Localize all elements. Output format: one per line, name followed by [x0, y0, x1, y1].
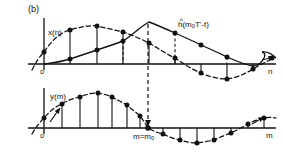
- top-sample-dots-h: [68, 31, 275, 62]
- bottom-origin-label: o: [40, 132, 44, 140]
- top-origin-label: o: [40, 68, 44, 76]
- panel-label: (b): [28, 5, 39, 14]
- figure-panel-b: (b) x(n) o n h^(m0T'-t) y(m) o m m=m0: [0, 0, 283, 155]
- top-x-axis-label: n: [268, 68, 272, 76]
- filter-label-mid: T'-t: [195, 20, 206, 29]
- m-equals-m0-label: m=m0: [133, 133, 154, 142]
- m-marker-sub: 0: [151, 135, 154, 141]
- top-stems: [70, 26, 253, 79]
- m-marker-head: m=m: [133, 132, 151, 141]
- top-curve-xn: [32, 26, 274, 79]
- filter-label-hat: ^: [180, 17, 183, 24]
- top-plot-group: [28, 18, 276, 82]
- filter-label-close: ): [206, 20, 209, 29]
- filter-response-label: h^(m0T'-t): [178, 21, 209, 30]
- top-curve-h: [44, 22, 265, 66]
- top-y-axis-label: x(n): [48, 29, 62, 37]
- bottom-y-axis-label: y(m): [50, 93, 66, 101]
- bottom-x-axis-label: m: [266, 132, 273, 140]
- filter-label-open: (m: [182, 20, 191, 29]
